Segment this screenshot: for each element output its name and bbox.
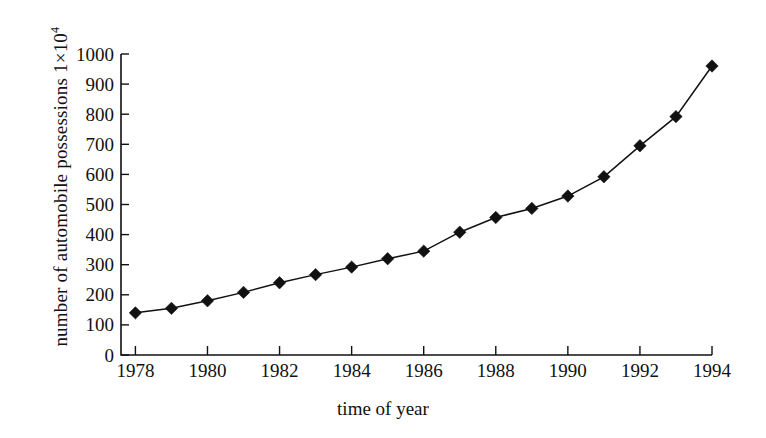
data-point-marker (165, 302, 177, 314)
data-markers (129, 60, 718, 319)
chart-figure: number of automobile possessions 1×104 0… (0, 0, 766, 438)
y-tick-label: 200 (86, 284, 115, 305)
data-point-marker (562, 190, 574, 202)
y-tick-label: 900 (86, 74, 115, 95)
y-tick-label: 500 (86, 194, 115, 215)
y-tick-label: 100 (86, 314, 115, 335)
x-axis-ticks: 197819801982198419861988199019921994 (116, 346, 731, 381)
y-tick-label: 0 (105, 345, 115, 366)
y-tick-label: 600 (86, 164, 115, 185)
data-point-marker (706, 60, 718, 72)
data-point-marker (526, 202, 538, 214)
data-point-marker (454, 226, 466, 238)
y-tick-label: 300 (86, 254, 115, 275)
y-tick-label: 700 (86, 134, 115, 155)
data-point-marker (490, 211, 502, 223)
x-tick-label: 1992 (621, 360, 659, 381)
data-point-marker (381, 252, 393, 264)
chart-plot-area: 01002003004005006007008009001000 1978198… (0, 0, 766, 438)
x-tick-label: 1988 (477, 360, 515, 381)
data-point-marker (237, 286, 249, 298)
x-tick-label: 1978 (116, 360, 154, 381)
x-tick-label: 1986 (405, 360, 443, 381)
y-tick-label: 1000 (76, 44, 114, 65)
x-tick-label: 1984 (333, 360, 372, 381)
axis-lines (121, 54, 712, 355)
data-point-marker (201, 295, 213, 307)
x-tick-label: 1980 (188, 360, 226, 381)
data-point-marker (273, 277, 285, 289)
data-point-marker (129, 307, 141, 319)
data-line (135, 66, 712, 313)
data-point-marker (345, 261, 357, 273)
y-tick-label: 400 (86, 224, 115, 245)
x-tick-label: 1994 (693, 360, 732, 381)
x-tick-label: 1982 (261, 360, 299, 381)
y-tick-label: 800 (86, 104, 115, 125)
x-tick-label: 1990 (549, 360, 587, 381)
data-point-marker (309, 268, 321, 280)
data-point-marker (418, 245, 430, 257)
x-axis-label: time of year (0, 398, 766, 420)
